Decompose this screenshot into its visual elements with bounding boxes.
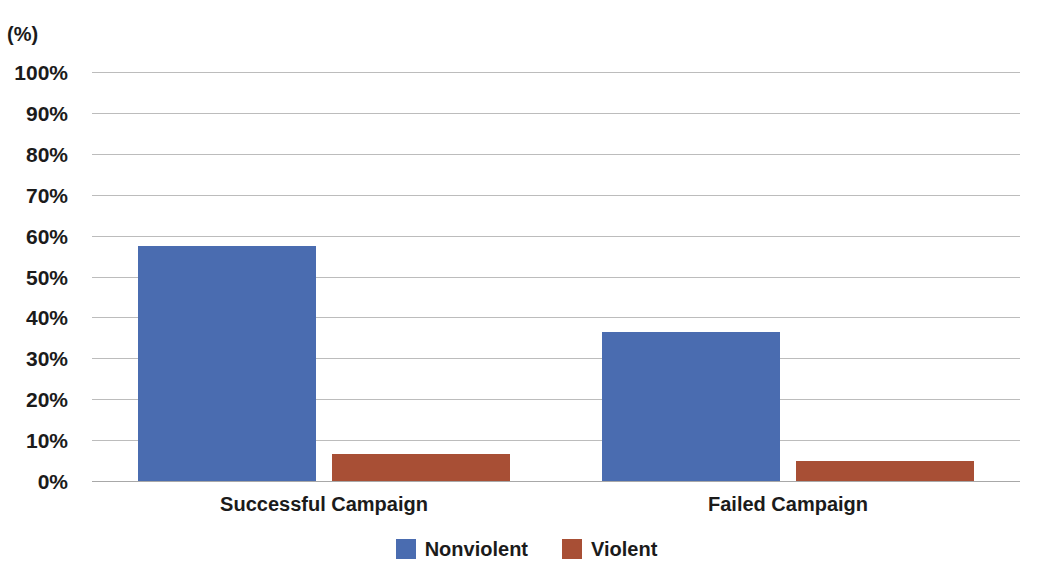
bar-nonviolent-successful-campaign xyxy=(138,246,316,481)
chart-legend: NonviolentViolent xyxy=(0,539,1053,559)
y-axis-tick-label: 50% xyxy=(0,267,68,288)
gridline xyxy=(92,154,1020,155)
y-axis-tick-label: 80% xyxy=(0,144,68,165)
bar-violent-successful-campaign xyxy=(332,454,510,481)
y-axis-tick-label: 10% xyxy=(0,430,68,451)
y-axis-tick-label: 70% xyxy=(0,185,68,206)
x-axis-category-label: Failed Campaign xyxy=(708,492,868,516)
bar-violent-failed-campaign xyxy=(796,461,974,481)
bar-chart: (%) 100%90%80%70%60%50%40%30%20%10%0% Su… xyxy=(0,0,1053,571)
y-axis-tick-label: 30% xyxy=(0,348,68,369)
y-axis-tick-label: 20% xyxy=(0,389,68,410)
gridline xyxy=(92,195,1020,196)
gridline xyxy=(92,72,1020,73)
legend-swatch-icon xyxy=(396,539,416,559)
legend-swatch-icon xyxy=(562,539,582,559)
y-axis-unit-label: (%) xyxy=(7,22,38,46)
gridline xyxy=(92,113,1020,114)
gridline xyxy=(92,236,1020,237)
y-axis-tick-label: 60% xyxy=(0,226,68,247)
legend-item-nonviolent[interactable]: Nonviolent xyxy=(396,539,528,559)
x-axis-category-label: Successful Campaign xyxy=(220,492,428,516)
y-axis-tick-label: 40% xyxy=(0,307,68,328)
bar-nonviolent-failed-campaign xyxy=(602,332,780,481)
legend-label: Nonviolent xyxy=(425,539,528,559)
legend-label: Violent xyxy=(591,539,657,559)
y-axis-tick-label: 90% xyxy=(0,103,68,124)
y-axis-tick-label: 0% xyxy=(0,471,68,492)
gridline xyxy=(92,481,1020,482)
y-axis-tick-label: 100% xyxy=(0,62,68,83)
legend-item-violent[interactable]: Violent xyxy=(562,539,657,559)
plot-area xyxy=(92,72,1020,481)
